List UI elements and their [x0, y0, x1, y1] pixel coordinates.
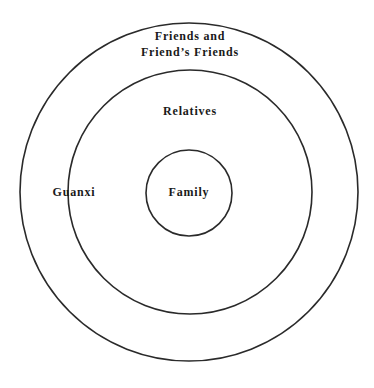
family-label: Family — [150, 184, 228, 200]
relatives-label: Relatives — [140, 103, 240, 119]
friends-label: Friends and Friend’s Friends — [124, 28, 256, 60]
friends-label-line2: Friend’s Friends — [124, 44, 256, 60]
friends-label-line1: Friends and — [124, 28, 256, 44]
guanxi-label: Guanxi — [44, 184, 104, 200]
